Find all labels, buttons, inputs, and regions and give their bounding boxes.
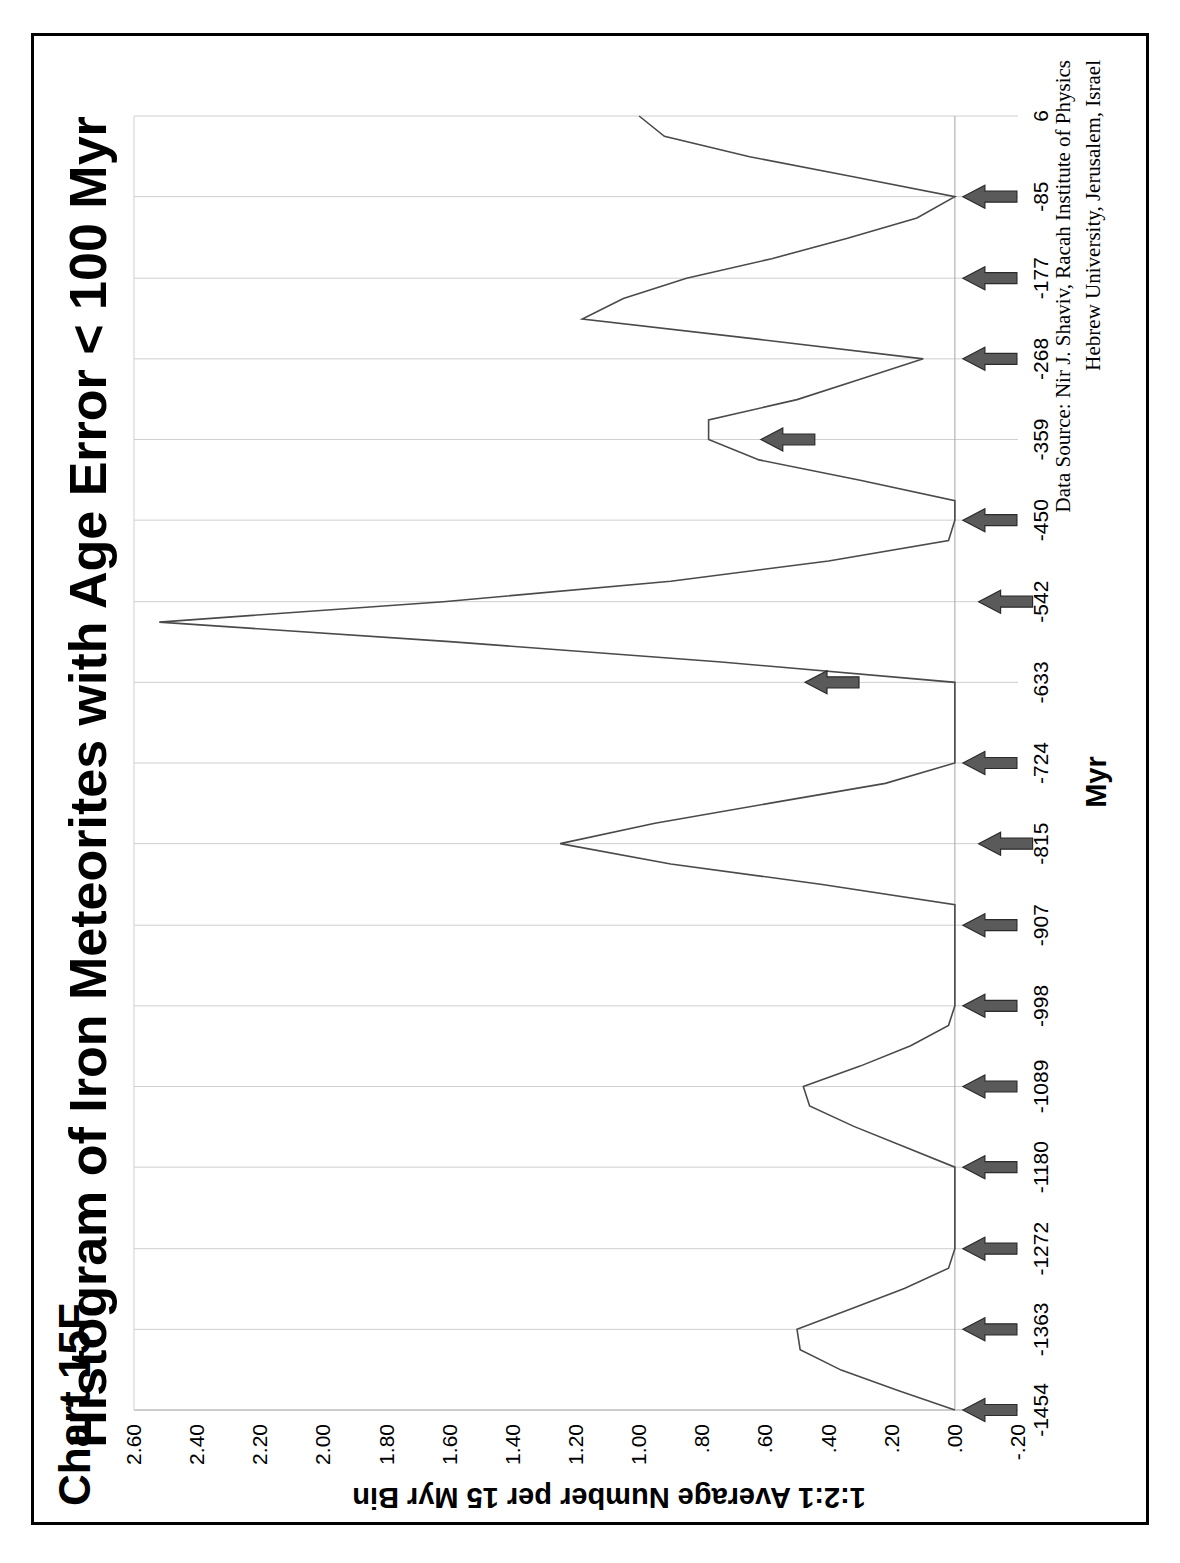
y-axis-title: 1:2:1 Average Number per 15 Myr Bin [352, 1482, 866, 1514]
y-axis-tick-labels: -.20.00.20.40.60.801.001.201.401.601.802… [122, 1424, 1029, 1465]
gridlines [134, 116, 1018, 1410]
y-tick-label: .80 [690, 1424, 713, 1453]
y-tick-label: 1.20 [564, 1424, 587, 1465]
chart-svg: Chart 15F Histogram of Iron Meteorites w… [34, 36, 1152, 1528]
rotated-chart-inner: Chart 15F Histogram of Iron Meteorites w… [34, 36, 1152, 1528]
x-tick-label: -1363 [1029, 1302, 1052, 1356]
annotation-arrow-icon [805, 671, 859, 694]
annotation-arrow-icon [963, 509, 1017, 532]
x-tick-label: -1454 [1029, 1383, 1052, 1437]
annotation-arrow-icon [963, 1318, 1017, 1341]
y-tick-label: 1.00 [627, 1424, 650, 1465]
annotation-arrow-icon [761, 428, 815, 451]
y-tick-label: 2.20 [248, 1424, 271, 1465]
y-tick-label: .00 [943, 1424, 966, 1453]
y-tick-label: 2.40 [185, 1424, 208, 1465]
annotation-arrow-icon [963, 1156, 1017, 1179]
annotation-arrow-icon [963, 347, 1017, 370]
annotation-arrow-icon [963, 994, 1017, 1017]
rotated-chart-wrapper: Chart 15F Histogram of Iron Meteorites w… [34, 36, 1152, 1528]
y-tick-label: 2.00 [311, 1424, 334, 1465]
chart-title: Histogram of Iron Meteorites with Age Er… [59, 116, 117, 1448]
annotation-arrow-icon [963, 1399, 1017, 1422]
annotation-arrow-icon [963, 752, 1017, 775]
y-tick-label: .40 [817, 1424, 840, 1453]
x-tick-label: -907 [1029, 904, 1052, 946]
y-tick-label: .60 [753, 1424, 776, 1453]
y-tick-label: .20 [880, 1424, 903, 1453]
x-tick-label: 6 [1029, 110, 1052, 122]
annotation-arrow-icon [963, 1075, 1017, 1098]
x-tick-label: -1089 [1029, 1060, 1052, 1114]
x-tick-label: -998 [1029, 985, 1052, 1027]
y-tick-label: 1.80 [375, 1424, 398, 1465]
y-tick-label: 2.60 [122, 1424, 145, 1465]
data-source-line-2: Hebrew University, Jerusalem, Israel [1081, 60, 1105, 371]
x-tick-label: -1180 [1029, 1141, 1052, 1193]
plot-area: -1454-1363-1272-1180-1089-998-907-815-72… [122, 110, 1052, 1465]
annotation-arrow-icon [963, 914, 1017, 937]
y-tick-label: 1.40 [501, 1424, 524, 1465]
x-axis-tick-labels: -1454-1363-1272-1180-1089-998-907-815-72… [1029, 110, 1052, 1437]
annotation-arrow-icon [963, 267, 1017, 290]
figure-frame: Chart 15F Histogram of Iron Meteorites w… [31, 33, 1149, 1525]
x-tick-label: -268 [1029, 338, 1052, 380]
x-tick-label: -450 [1029, 499, 1052, 541]
annotation-arrow-icon [979, 832, 1033, 855]
x-tick-label: -633 [1029, 661, 1052, 703]
arrow-annotations [761, 185, 1033, 1421]
x-tick-label: -85 [1029, 181, 1052, 211]
x-tick-label: -359 [1029, 418, 1052, 460]
figure-page: Chart 15F Histogram of Iron Meteorites w… [0, 0, 1180, 1563]
annotation-arrow-icon [963, 1237, 1017, 1260]
y-tick-label: -.20 [1006, 1424, 1029, 1460]
data-source-line-1: Data Source: Nir J. Shaviv, Racah Instit… [1051, 60, 1075, 512]
annotation-arrow-icon [963, 185, 1017, 208]
y-tick-label: 1.60 [438, 1424, 461, 1465]
annotation-arrow-icon [979, 590, 1033, 613]
x-tick-label: -724 [1029, 742, 1052, 784]
x-tick-label: -177 [1029, 257, 1052, 299]
x-tick-label: -1272 [1029, 1222, 1052, 1276]
x-axis-title: Myr [1080, 756, 1112, 808]
